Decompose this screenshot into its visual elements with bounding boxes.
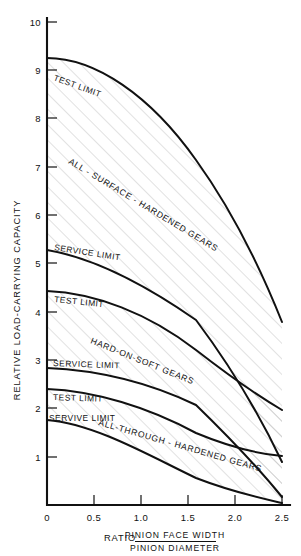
- y-tick-label-5: 5: [35, 258, 41, 269]
- x-tick-label-1-5: 1.5: [181, 512, 195, 523]
- x-tick-label-2-0: 2.0: [228, 512, 242, 523]
- x-tick-label-0: 0: [44, 512, 50, 523]
- y-tick-label-10: 10: [30, 17, 41, 28]
- y-axis-title: RELATIVE LOAD-CARRYING CAPACITY: [12, 200, 22, 400]
- label-band3-service-limit: SERVIVE LIMIT: [49, 413, 115, 423]
- y-tick-label-1: 1: [35, 452, 41, 463]
- label-band3-test-limit: TEST LIMIT: [53, 392, 103, 404]
- x-tick-label-2-5: 2.5: [275, 512, 289, 523]
- y-tick-label-3: 3: [35, 355, 41, 366]
- chart-figure: 10 9 8 7 6 5 4 3 2 1 0 0.5 1.0 1.5 2.0 2…: [0, 0, 301, 556]
- x-tick-label-1-0: 1.0: [134, 512, 148, 523]
- x-axis-title-denominator: PINION DIAMETER: [130, 543, 220, 553]
- y-tick-label-6: 6: [35, 210, 41, 221]
- y-tick-label-9: 9: [35, 65, 41, 76]
- y-tick-label-4: 4: [35, 307, 41, 318]
- chart-svg: 10 9 8 7 6 5 4 3 2 1 0 0.5 1.0 1.5 2.0 2…: [0, 0, 301, 556]
- y-tick-label-8: 8: [35, 113, 41, 124]
- x-tick-label-0-5: 0.5: [87, 512, 101, 523]
- x-axis-title-numerator: PINION FACE WIDTH: [125, 530, 225, 540]
- y-tick-label-7: 7: [35, 162, 41, 173]
- y-tick-label-2: 2: [35, 403, 41, 414]
